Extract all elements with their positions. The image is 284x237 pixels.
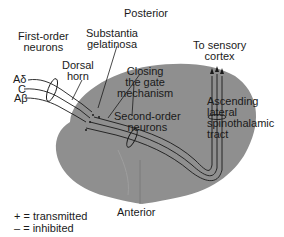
label-anterior: Anterior [117,207,156,218]
legend-text-inhibited: = inhibited [23,222,73,234]
label-ascending-tract: Ascending lateral spinothalamic tract [207,96,274,140]
label-closing-gate: Closing the gate mechanism [117,66,173,99]
plus-symbol: + [14,210,20,222]
label-dorsal-horn: Dorsal horn [62,60,94,82]
label-second-order-line2: neurons [114,122,181,133]
label-to-sensory-cortex: To sensory cortex [193,40,246,62]
label-second-order-neurons: Second-order neurons [114,111,181,133]
label-ascending-line4: tract [207,129,274,140]
legend-item-transmitted: + = transmitted [14,210,87,222]
legend-item-inhibited: – = inhibited [14,222,87,234]
label-sensory-line2: cortex [193,51,246,62]
label-substantia-gelatinosa: Substantia gelatinosa [86,28,138,50]
label-closing-line3: mechanism [117,88,173,99]
label-dorsal-line2: horn [62,71,94,82]
label-posterior: Posterior [124,8,168,19]
label-substantia-line2: gelatinosa [86,39,138,50]
gate-control-diagram: Posterior First-order neurons Substantia… [0,0,284,237]
legend: + = transmitted – = inhibited [14,210,87,234]
label-first-order-neurons: First-order neurons [18,31,69,53]
minus-symbol: – [14,222,20,234]
label-first-order-line2: neurons [18,42,69,53]
label-fiber-a-beta: Aβ [14,93,28,104]
legend-text-transmitted: = transmitted [24,210,88,222]
